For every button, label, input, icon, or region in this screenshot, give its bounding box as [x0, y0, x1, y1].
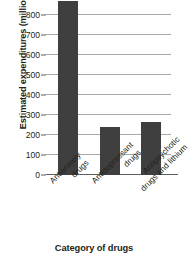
bars-group	[46, 0, 171, 175]
y-axis-tick-label: 300	[26, 110, 40, 119]
y-axis-tick-label: 600	[26, 50, 40, 59]
y-axis-tick-label: 400	[26, 90, 40, 99]
y-axis-tick-label: 100	[26, 150, 40, 159]
x-axis-category-labels: AntianxietydrugsAntidepressantdrugsAntip…	[0, 175, 188, 240]
y-axis-tick-label: 800	[26, 10, 40, 19]
x-axis-title: Category of drugs	[0, 243, 188, 253]
plot-area: 0100200300400500600700800	[46, 0, 171, 175]
bar-chart-figure: Estimated expenditures (millions) 010020…	[0, 0, 188, 263]
y-axis-tick-label: 500	[26, 70, 40, 79]
bar	[58, 1, 78, 175]
y-axis-tick-label: 700	[26, 30, 40, 39]
y-axis-tick-label: 200	[26, 130, 40, 139]
